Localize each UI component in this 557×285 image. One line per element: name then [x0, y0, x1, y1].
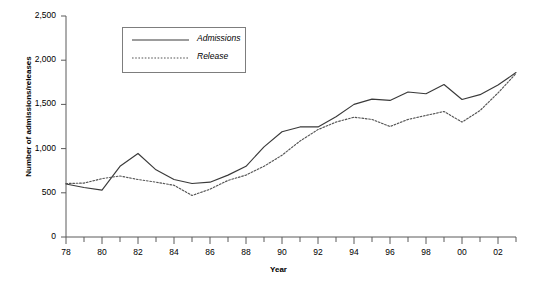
series-line-admissions — [66, 73, 516, 191]
x-tick-label: 84 — [159, 247, 189, 257]
chart-series — [66, 73, 516, 196]
line-chart: 05001,0001,5002,0002,500 788082848688909… — [0, 0, 557, 285]
legend-item-admissions: Admissions — [123, 32, 245, 48]
x-tick-label: 86 — [195, 247, 225, 257]
y-tick-label: 0 — [8, 231, 56, 241]
y-tick-label: 2,500 — [8, 10, 56, 20]
series-line-release — [66, 73, 516, 195]
chart-plot-area — [0, 0, 557, 285]
x-tick-label: 94 — [339, 247, 369, 257]
x-tick-label: 92 — [303, 247, 333, 257]
legend-line-solid-icon — [132, 39, 189, 41]
legend-label-admissions: Admissions — [197, 33, 240, 43]
legend-item-release: Release — [123, 50, 245, 66]
legend-label-release: Release — [197, 51, 228, 61]
x-tick-label: 78 — [51, 247, 81, 257]
legend-line-dotted-icon — [132, 57, 189, 59]
x-tick-label: 90 — [267, 247, 297, 257]
x-axis-title: Year — [0, 265, 557, 274]
x-tick-label: 80 — [87, 247, 117, 257]
x-tick-label: 88 — [231, 247, 261, 257]
chart-legend: Admissions Release — [122, 27, 246, 73]
x-tick-label: 98 — [411, 247, 441, 257]
x-tick-label: 02 — [483, 247, 513, 257]
x-tick-label: 82 — [123, 247, 153, 257]
x-tick-label: 00 — [447, 247, 477, 257]
x-tick-label: 96 — [375, 247, 405, 257]
y-axis-title: Number of admissions/releases — [24, 32, 33, 202]
